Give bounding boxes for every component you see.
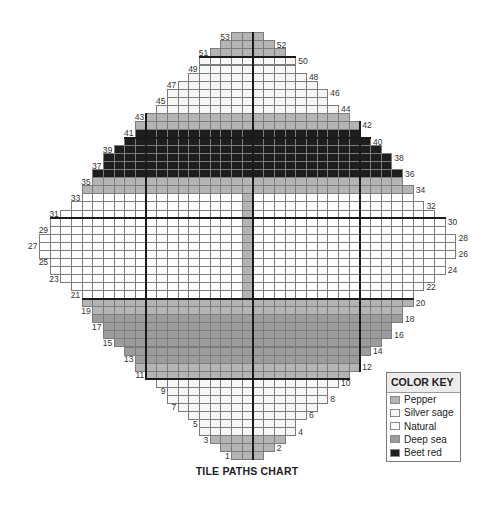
heavy-horizontal-line [146, 378, 350, 380]
row-label: 47 [167, 80, 176, 90]
heavy-vertical-line [252, 355, 254, 364]
heavy-vertical-line [359, 153, 361, 162]
heavy-vertical-line [252, 234, 254, 243]
key-item-deep-sea: Deep sea [387, 433, 460, 446]
heavy-vertical-line [145, 145, 147, 154]
heavy-vertical-line [252, 81, 254, 90]
heavy-vertical-line [359, 145, 361, 154]
row-label: 43 [135, 112, 144, 122]
row-label: 24 [448, 265, 457, 275]
swatch-natural-icon [390, 422, 400, 430]
row-label: 36 [405, 169, 414, 179]
row-label: 35 [81, 177, 90, 187]
heavy-vertical-line [252, 226, 254, 235]
heavy-vertical-line [252, 89, 254, 98]
row-label: 13 [124, 354, 133, 364]
key-label: Deep sea [404, 434, 447, 445]
row-label: 40 [373, 137, 382, 147]
heavy-vertical-line [145, 169, 147, 178]
heavy-vertical-line [145, 338, 147, 347]
heavy-vertical-line [252, 274, 254, 283]
heavy-vertical-line [252, 347, 254, 356]
heavy-vertical-line [359, 274, 361, 283]
heavy-vertical-line [359, 266, 361, 275]
tile-cell [317, 395, 329, 404]
heavy-vertical-line [252, 419, 254, 428]
heavy-vertical-line [359, 306, 361, 315]
row-label: 11 [135, 370, 144, 380]
heavy-vertical-line [359, 363, 361, 372]
row-label: 25 [39, 257, 48, 267]
heavy-vertical-line [252, 282, 254, 291]
heavy-vertical-line [145, 242, 147, 251]
key-label: Pepper [404, 394, 436, 405]
heavy-horizontal-line [124, 137, 371, 139]
tile-cell [295, 411, 307, 420]
row-label: 22 [426, 282, 435, 292]
tile-cell [434, 226, 446, 235]
heavy-vertical-line [252, 314, 254, 323]
tile-cell [285, 419, 297, 428]
tile-cell [253, 451, 265, 460]
tile-cell [445, 234, 457, 243]
heavy-vertical-line [252, 435, 254, 444]
row-label: 39 [103, 145, 112, 155]
row-label: 19 [81, 306, 90, 316]
row-label: 1 [225, 451, 230, 461]
tile-cell [359, 347, 371, 356]
heavy-vertical-line [145, 234, 147, 243]
heavy-vertical-line [145, 266, 147, 275]
heavy-vertical-line [145, 201, 147, 210]
heavy-vertical-line [145, 363, 147, 372]
heavy-vertical-line [252, 185, 254, 194]
heavy-vertical-line [252, 145, 254, 154]
heavy-vertical-line [359, 185, 361, 194]
heavy-vertical-line [359, 314, 361, 323]
heavy-vertical-line [145, 314, 147, 323]
key-item-natural: Natural [387, 420, 460, 433]
tile-cell [381, 153, 393, 162]
row-label: 33 [71, 193, 80, 203]
tile-cell [381, 161, 393, 170]
row-label: 9 [161, 386, 166, 396]
tile-cell [402, 185, 414, 194]
row-label: 53 [220, 32, 229, 42]
tile-cell [381, 322, 393, 331]
heavy-vertical-line [252, 338, 254, 347]
row-label: 29 [39, 225, 48, 235]
tile-cell [295, 73, 307, 82]
heavy-vertical-line [359, 121, 361, 130]
tile-cell [434, 266, 446, 275]
swatch-deep-sea-icon [390, 435, 400, 443]
heavy-vertical-line [252, 161, 254, 170]
heavy-vertical-line [359, 330, 361, 339]
row-label: 46 [330, 88, 339, 98]
row-label: 23 [49, 274, 58, 284]
row-label: 37 [92, 161, 101, 171]
heavy-vertical-line [145, 322, 147, 331]
tile-cell [306, 403, 318, 412]
tile-cell [263, 443, 275, 452]
tile-cell [317, 89, 329, 98]
heavy-vertical-line [359, 161, 361, 170]
key-label: Silver sage [404, 407, 453, 418]
tile-cell [391, 314, 403, 323]
row-label: 16 [394, 330, 403, 340]
heavy-vertical-line [252, 403, 254, 412]
heavy-vertical-line [359, 282, 361, 291]
heavy-vertical-line [252, 443, 254, 452]
key-item-pepper: Pepper [387, 393, 460, 406]
color-key-heading: COLOR KEY [387, 373, 460, 393]
heavy-vertical-line [252, 363, 254, 372]
tile-cell [317, 387, 329, 396]
heavy-vertical-line [252, 40, 254, 49]
row-label: 30 [448, 217, 457, 227]
heavy-vertical-line [359, 250, 361, 259]
heavy-vertical-line [252, 32, 254, 41]
tile-cell [402, 193, 414, 202]
heavy-vertical-line [145, 250, 147, 259]
heavy-vertical-line [359, 355, 361, 364]
row-label: 6 [309, 410, 314, 420]
tile-cell [445, 250, 457, 259]
row-label: 38 [394, 153, 403, 163]
